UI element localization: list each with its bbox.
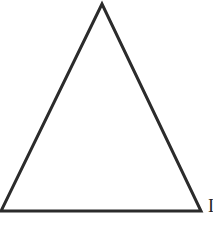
vertex-label-bottom-right: I — [208, 197, 213, 215]
triangle-shape — [1, 4, 201, 211]
triangle-diagram — [0, 0, 213, 226]
